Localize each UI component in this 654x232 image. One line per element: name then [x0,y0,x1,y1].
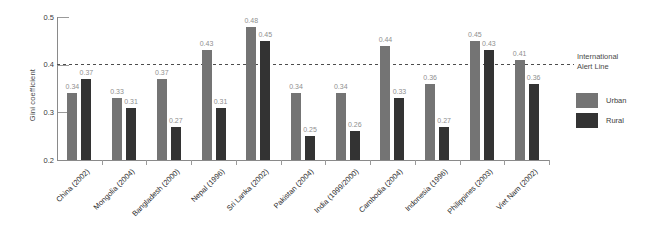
y-axis-title: Gini coefficient [28,42,38,148]
x-axis-line [57,160,550,161]
y-tick-mark [58,65,69,66]
urban-legend-swatch [576,93,598,108]
bar-rural [216,108,226,160]
bar-urban [202,50,212,160]
y-tick-label: 0.4 [30,60,54,69]
y-tick-label: 0.2 [30,156,54,165]
bar-value-label: 0.45 [250,31,280,38]
y-tick-mark [58,17,69,18]
bar-value-label: 0.36 [415,74,445,81]
x-tick-mark [102,160,103,165]
bar-value-label: 0.26 [340,121,370,128]
bar-rural [439,127,449,160]
bar-urban [67,93,77,160]
bar-value-label: 0.25 [295,126,325,133]
bar-value-label: 0.34 [281,83,311,90]
bar-value-label: 0.41 [505,50,535,57]
x-tick-mark [191,160,192,165]
x-tick-mark [549,160,550,165]
bar-value-label: 0.31 [206,98,236,105]
y-tick-label: 0.3 [30,108,54,117]
bar-value-label: 0.33 [102,88,132,95]
bar-value-label: 0.48 [236,17,266,24]
bar-value-label: 0.37 [71,69,101,76]
bar-value-label: 0.27 [161,117,191,124]
rural-legend-label: Rural [606,116,624,125]
bar-rural [484,50,494,160]
rural-legend-swatch [576,113,598,128]
bar-value-label: 0.31 [116,98,146,105]
x-tick-mark [281,160,282,165]
bar-urban [246,27,256,160]
bar-rural [529,84,539,160]
international-alert-dashed-line [57,64,574,65]
bar-value-label: 0.43 [474,40,504,47]
bar-urban [112,98,122,160]
bar-rural [394,98,404,160]
x-tick-mark [504,160,505,165]
urban-legend-label: Urban [606,96,626,105]
y-tick-label: 0.5 [30,13,54,22]
bar-value-label: 0.27 [429,117,459,124]
x-tick-mark [415,160,416,165]
bar-value-label: 0.43 [192,40,222,47]
bar-value-label: 0.44 [370,36,400,43]
legend-item-rural: Rural [576,113,624,128]
bar-value-label: 0.33 [384,88,414,95]
x-tick-mark [460,160,461,165]
bar-rural [126,108,136,160]
x-tick-mark [325,160,326,165]
bar-value-label: 0.37 [147,69,177,76]
bar-value-label: 0.36 [519,74,549,81]
bar-value-label: 0.34 [326,83,356,90]
bar-value-label: 0.45 [460,31,490,38]
bar-urban [380,46,390,160]
bar-urban [470,41,480,160]
bar-rural [171,127,181,160]
international-alert-line-label: International Alert Line [577,52,635,72]
bar-rural [305,136,315,160]
x-tick-mark [146,160,147,165]
gini-coefficient-bar-chart: Gini coefficient International Alert Lin… [0,0,654,232]
legend-item-urban: Urban [576,93,626,108]
bar-rural [81,79,91,160]
bar-rural [350,131,360,160]
x-tick-mark [236,160,237,165]
bar-rural [260,41,270,160]
x-tick-mark [370,160,371,165]
